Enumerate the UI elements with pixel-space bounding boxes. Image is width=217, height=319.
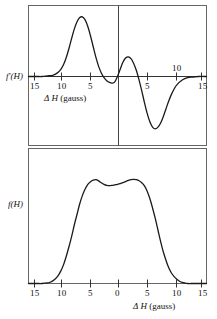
bottom-tick-label-3: 0	[115, 289, 120, 298]
top-tick-label-left-15: 15	[30, 82, 40, 91]
top-tick-label-right-15: 15	[198, 82, 208, 91]
top-x-axis-delta: Δ	[44, 93, 49, 103]
bottom-panel-frame	[29, 149, 207, 284]
top-tick-label-right-10: 10	[172, 64, 182, 73]
absorption-curve	[29, 179, 207, 283]
bottom-tick-label-4: 5	[145, 289, 150, 298]
bottom-tick-label-6: 15	[198, 289, 208, 298]
top-panel-x-axis-title: Δ H (gauss)	[44, 94, 86, 103]
bottom-x-axis-units: (gauss)	[149, 301, 175, 311]
bottom-tick-label-1: 10	[57, 289, 67, 298]
bottom-x-axis-delta: Δ	[133, 301, 138, 311]
top-tick-label-left-10: 10	[57, 82, 67, 91]
bottom-tick-label-5: 10	[172, 289, 182, 298]
top-tick-label-left-5: 5	[88, 82, 93, 91]
figure-container: f′(H) 15 10 5 5 10 15 Δ H (gauss) f(H) 1…	[0, 0, 217, 319]
figure-canvas	[0, 0, 217, 319]
bottom-panel-x-axis-title: Δ H (gauss)	[133, 302, 175, 311]
top-x-axis-units: (gauss)	[60, 93, 86, 103]
bottom-x-axis-h: H	[141, 301, 148, 311]
bottom-tick-label-2: 5	[88, 289, 93, 298]
bottom-panel-y-axis-label: f(H)	[8, 200, 23, 209]
top-tick-label-right-5: 5	[145, 82, 150, 91]
top-x-axis-h: H	[52, 93, 59, 103]
top-panel-y-axis-label: f′(H)	[6, 72, 23, 81]
bottom-tick-label-0: 15	[30, 289, 40, 298]
